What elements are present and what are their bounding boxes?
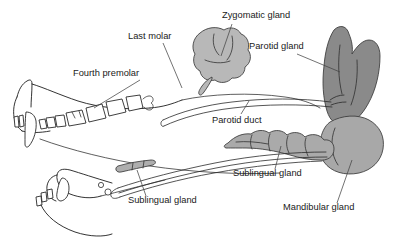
parotid-gland [323, 27, 380, 126]
salivary-gland-diagram: Zygomatic gland Parotid gland Last molar… [0, 0, 398, 247]
label-parotid-gland: Parotid gland [249, 41, 304, 51]
figure-canvas: Zygomatic gland Parotid gland Last molar… [0, 0, 398, 247]
leader-sublingual-lower [137, 170, 146, 196]
label-sublingual-gland-upper: Sublingual gland [233, 168, 302, 178]
sublingual-gland-chain [224, 130, 334, 160]
label-last-molar: Last molar [128, 31, 171, 41]
label-fourth-premolar: Fourth premolar [73, 68, 139, 78]
leader-last-molar [163, 43, 182, 88]
label-parotid-duct: Parotid duct [212, 115, 262, 125]
sublingual-gland-rostral [116, 160, 156, 172]
label-zygomatic-gland: Zygomatic gland [222, 10, 290, 20]
leader-lines [94, 24, 352, 203]
label-mandibular-gland: Mandibular gland [283, 202, 354, 212]
label-sublingual-gland-lower: Sublingual gland [128, 195, 197, 205]
leader-parotid-duct [241, 101, 249, 114]
zygomatic-gland [193, 28, 250, 95]
